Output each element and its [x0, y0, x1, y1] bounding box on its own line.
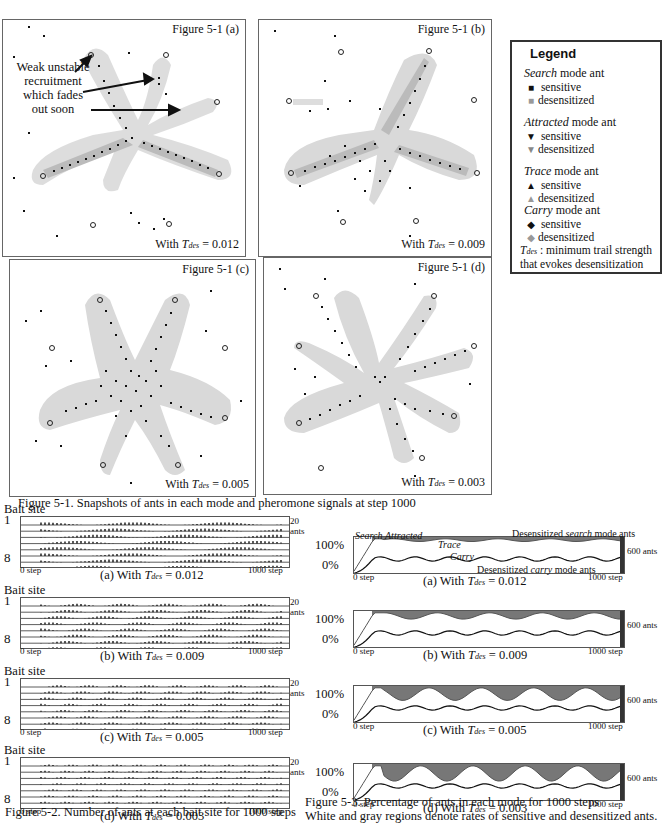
annotation-search: Search — [355, 530, 382, 541]
subplot-caption: (b) With Tdes = 0.009 — [100, 649, 204, 664]
triangle-up-icon: ▲ — [524, 179, 538, 192]
percentage-plot-area — [353, 610, 625, 648]
figure-5-1-caption: Figure 5-1. Snapshots of ants in each mo… — [18, 496, 416, 511]
site-last-label: 8 — [4, 550, 11, 566]
percentage-plot-area — [353, 685, 625, 723]
site-first-label: 1 — [4, 512, 11, 528]
y-top-label: 100% — [315, 612, 344, 627]
scale-label: 20 ants — [290, 678, 305, 698]
figure-5-1c-panel: Figure 5-1 (c) With Tdes = 0.005 — [9, 259, 256, 497]
y-bottom-label: 0% — [322, 707, 339, 722]
triangle-down-gray-icon: ▼ — [524, 143, 538, 156]
scale-label: 20 ants — [290, 757, 305, 777]
ant-snapshot-b — [259, 20, 491, 256]
annotation-desens-search: Desensitized search mode ants — [512, 528, 635, 539]
scale-label: 20 ants — [290, 597, 305, 617]
diamond-gray-icon: ◆ — [524, 231, 538, 244]
site-first-label: 1 — [4, 674, 11, 690]
bait-plot-area — [20, 516, 290, 568]
figure-5-1d-panel: Figure 5-1 (d) With Tdes = 0.003 — [263, 257, 492, 495]
legend-title: Legend — [530, 46, 576, 61]
subplot-caption: (c) With Tdes = 0.005 — [100, 730, 203, 745]
square-gray-icon: ■ — [524, 94, 538, 107]
x-end-label: 1000 step — [588, 721, 623, 731]
y-bottom-label: 0% — [322, 632, 339, 647]
x-start-label: 0 step — [20, 727, 41, 737]
scale-label: 600 ants — [627, 620, 657, 630]
panel-caption: With Tdes = 0.012 — [155, 237, 239, 252]
legend-box: Legend Search mode ant ■ sensitive ■dese… — [510, 40, 662, 274]
annotation-trace: Trace — [438, 539, 461, 550]
annotation-carry: Carry — [450, 551, 474, 562]
bait-plot-area — [20, 597, 290, 649]
x-start-label: 0 step — [20, 646, 41, 656]
y-top-label: 100% — [315, 765, 344, 780]
scale-label: 600 ants — [627, 546, 657, 556]
legend-group-trace: Trace mode ant ▲ sensitive ▲desensitized — [524, 164, 599, 205]
y-top-label: 100% — [315, 687, 344, 702]
annotation-desens-carry: Desensitized carry mode ants — [477, 564, 596, 575]
x-end-label: 1000 step — [248, 565, 283, 575]
ant-snapshot-a — [3, 20, 245, 256]
figure-5-3-caption-line1: Figure 5-3. Percentage of ants in each m… — [305, 795, 599, 810]
x-end-label: 1000 step — [248, 646, 283, 656]
y-bottom-label: 0% — [322, 558, 339, 573]
figure-5-3-caption-line2: White and gray regions denote rates of s… — [305, 809, 657, 824]
x-end-label: 1000 step — [588, 646, 623, 656]
subplot-caption: (a) With Tdes = 0.012 — [100, 568, 203, 583]
panel-title: Figure 5-1 (b) — [418, 22, 485, 37]
figure-5-2-caption: Figure 5-2. Number of ants at each bait … — [5, 805, 296, 820]
legend-group-search: Search mode ant ■ sensitive ■desensitize… — [524, 66, 604, 107]
legend-group-attracted: Attracted mode ant ▼ sensitive ▼desensit… — [524, 115, 616, 156]
subplot-caption: (b) With Tdes = 0.009 — [423, 648, 527, 663]
x-start-label: 0 step — [20, 565, 41, 575]
panel-caption: With Tdes = 0.003 — [401, 475, 485, 490]
panel-caption: With Tdes = 0.005 — [165, 477, 249, 492]
y-top-label: 100% — [315, 538, 344, 553]
panel-title: Figure 5-1 (c) — [182, 262, 249, 277]
diamond-icon: ◆ — [524, 218, 538, 231]
bait-plot-area — [20, 757, 290, 809]
ant-snapshot-d — [264, 258, 491, 494]
square-icon: ■ — [524, 81, 538, 94]
legend-group-carry: Carry mode ant ◆ sensitive ◆desensitized — [524, 203, 600, 244]
x-start-label: 0 step — [353, 721, 374, 731]
x-start-label: 0 step — [353, 646, 374, 656]
bait-plot-area — [20, 678, 290, 730]
figure-5-1a-panel: Figure 5-1 (a) Weak unstable recruitment… — [2, 19, 246, 257]
scale-label: 600 ants — [627, 695, 657, 705]
panel-title: Figure 5-1 (d) — [418, 260, 485, 275]
site-first-label: 1 — [4, 753, 11, 769]
triangle-down-icon: ▼ — [524, 130, 538, 143]
panel-caption: With Tdes = 0.009 — [401, 237, 485, 252]
x-start-label: 0 step — [353, 572, 374, 582]
x-end-label: 1000 step — [248, 727, 283, 737]
ant-dots — [13, 26, 209, 237]
site-last-label: 8 — [4, 712, 11, 728]
subplot-caption: (a) With Tdes = 0.012 — [423, 574, 526, 589]
legend-note: Tdes : minimum trail strength that evoke… — [520, 244, 660, 271]
scale-label: 600 ants — [627, 773, 657, 783]
ant-snapshot-c — [10, 260, 255, 496]
annotation-text: Weak unstable recruitment which fades ou… — [13, 60, 93, 116]
figure-5-1b-panel: Figure 5-1 (b) With Tdes = 0.009 — [258, 19, 492, 257]
site-first-label: 1 — [4, 593, 11, 609]
panel-title: Figure 5-1 (a) — [172, 22, 239, 37]
scale-label: 20 ants — [290, 516, 305, 536]
site-last-label: 8 — [4, 631, 11, 647]
subplot-caption: (c) With Tdes = 0.005 — [423, 723, 526, 738]
annotation-attracted: Attracted — [385, 530, 422, 541]
